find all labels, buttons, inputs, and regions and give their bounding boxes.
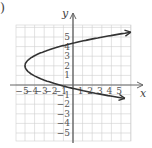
y-tick-label: 4 [64,42,70,52]
y-tick-label: 3 [64,51,70,61]
y-tick-label: −4 [57,118,71,128]
y-axis-label: y [61,7,69,20]
y-tick-label: −2 [57,99,70,109]
y-tick-label: 1 [64,70,70,80]
x-axis-label: x [140,87,147,100]
y-tick-label: −5 [57,128,71,138]
parabola-graph: xy−5−4−3−2−11234554321−1−2−3−4−5 [0,0,152,148]
y-tick-label: −3 [57,109,71,119]
y-tick-label: 5 [64,32,70,42]
y-tick-label: −1 [57,90,70,100]
x-tick-label: 4 [107,86,113,96]
x-tick-label: 5 [116,86,122,96]
y-tick-label: 2 [64,61,70,71]
